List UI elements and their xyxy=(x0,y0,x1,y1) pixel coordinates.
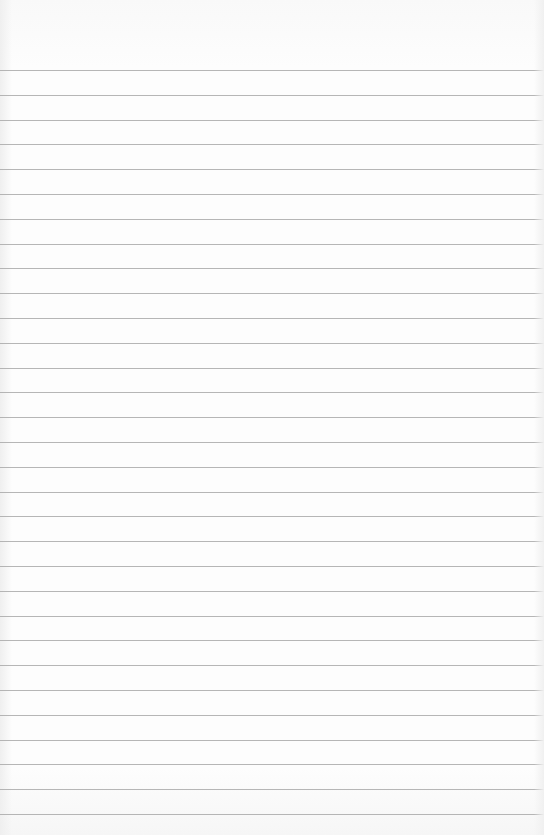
ruled-line xyxy=(0,516,544,517)
ruled-line xyxy=(0,715,544,716)
ruled-line xyxy=(0,467,544,468)
ruled-line xyxy=(0,268,544,269)
ruled-line xyxy=(0,665,544,666)
ruled-line xyxy=(0,95,544,96)
ruled-line xyxy=(0,70,544,71)
ruled-line xyxy=(0,293,544,294)
lined-paper xyxy=(0,0,544,835)
ruled-line xyxy=(0,144,544,145)
ruled-line xyxy=(0,368,544,369)
ruled-line xyxy=(0,392,544,393)
ruled-line xyxy=(0,219,544,220)
ruled-line xyxy=(0,244,544,245)
ruled-line xyxy=(0,194,544,195)
ruled-line xyxy=(0,120,544,121)
ruled-line xyxy=(0,690,544,691)
ruled-line xyxy=(0,169,544,170)
ruled-line xyxy=(0,318,544,319)
ruled-line xyxy=(0,789,544,790)
ruled-line xyxy=(0,492,544,493)
ruled-line xyxy=(0,566,544,567)
ruled-line xyxy=(0,764,544,765)
ruled-line xyxy=(0,640,544,641)
ruled-line xyxy=(0,616,544,617)
ruled-line xyxy=(0,442,544,443)
ruled-line xyxy=(0,591,544,592)
ruled-line xyxy=(0,343,544,344)
ruled-line xyxy=(0,814,544,815)
ruled-line xyxy=(0,740,544,741)
ruled-line xyxy=(0,541,544,542)
ruled-line xyxy=(0,417,544,418)
